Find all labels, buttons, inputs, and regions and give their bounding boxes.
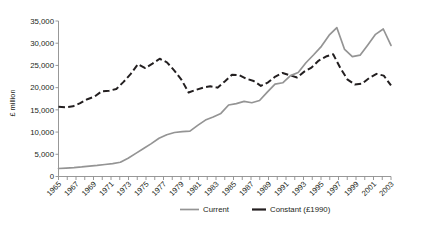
y-axis-tick-label: 10,000 — [30, 128, 55, 137]
y-axis-tick-label: 5,000 — [34, 150, 54, 159]
y-axis-tick-label: 20,000 — [30, 83, 55, 92]
x-axis-tick-label: 1969 — [80, 180, 98, 198]
x-axis-tick-labels: 1965196719691971197319751977197919811983… — [45, 180, 396, 198]
legend: Current Constant (£1990) — [180, 205, 331, 214]
y-axis-label-group: £ million — [8, 89, 17, 116]
y-axis-tick-label: 15,000 — [30, 106, 55, 115]
x-axis-tick-label: 1993 — [290, 180, 308, 198]
y-axis-tick-label: 0 — [50, 172, 55, 181]
x-axis-tick-label: 1975 — [132, 180, 150, 198]
x-axis-tick-label: 1989 — [255, 180, 273, 198]
x-axis-tick-label: 1981 — [185, 180, 203, 198]
y-axis-label: £ million — [8, 89, 17, 116]
x-axis-tick-label: 1983 — [202, 180, 220, 198]
series-line-current — [59, 28, 392, 169]
x-axis-tick-label: 1997 — [325, 180, 343, 198]
line-chart: £ million 05,00010,00015,00020,00025,000… — [0, 0, 438, 227]
series-line-constant — [59, 54, 392, 107]
x-axis-tick-label: 2001 — [360, 180, 378, 198]
legend-label-current: Current — [203, 205, 230, 214]
x-axis-tick-label: 1995 — [307, 180, 325, 198]
x-axis-tick-label: 1965 — [45, 180, 63, 198]
x-axis-tick-label: 1973 — [115, 180, 133, 198]
y-axis-tick-label: 35,000 — [30, 17, 55, 26]
y-axis-tick-labels: 05,00010,00015,00020,00025,00030,00035,0… — [30, 17, 55, 182]
x-axis-tick-label: 1999 — [342, 180, 360, 198]
x-axis-tick-label: 1987 — [237, 180, 255, 198]
x-axis-tick-label: 2003 — [377, 180, 395, 198]
legend-label-constant: Constant (£1990) — [270, 205, 331, 214]
x-axis-tick-label: 1977 — [150, 180, 168, 198]
x-axis-tick-label: 1979 — [167, 180, 185, 198]
y-axis-tick-label: 25,000 — [30, 61, 55, 70]
x-axis-tick-label: 1971 — [97, 180, 115, 198]
x-axis-tick-label: 1991 — [272, 180, 290, 198]
x-axis-tick-label: 1985 — [220, 180, 238, 198]
y-axis-tick-label: 30,000 — [30, 39, 55, 48]
x-axis-tick-label: 1967 — [62, 180, 80, 198]
